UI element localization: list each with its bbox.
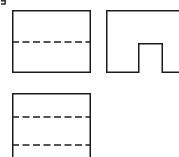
technical-drawing-canvas [0,0,179,157]
top-view [12,93,91,157]
label-fragment-mark [1,0,6,5]
orthographic-projection-svg [0,0,179,157]
top-view-face [12,93,91,157]
side-view-face [106,10,179,73]
front-view [12,10,91,73]
side-view [106,10,179,73]
